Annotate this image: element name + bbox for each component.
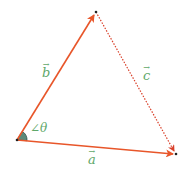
label-a: →a bbox=[88, 153, 96, 166]
label-b: →b bbox=[42, 66, 50, 79]
vector-arrow-icon: → bbox=[88, 148, 96, 156]
label-angle: ∠θ bbox=[30, 122, 47, 134]
vector-arrow-icon: → bbox=[143, 64, 150, 72]
vector-c bbox=[96, 12, 174, 151]
point-right bbox=[175, 153, 178, 156]
point-origin bbox=[16, 139, 19, 142]
vector-b bbox=[17, 15, 94, 140]
vector-arrow-icon: → bbox=[42, 61, 50, 69]
point-top bbox=[95, 11, 98, 14]
label-c: →c bbox=[143, 69, 150, 82]
